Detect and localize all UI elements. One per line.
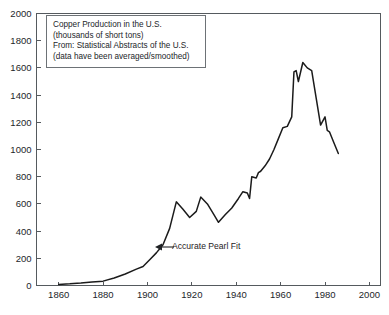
info-line-units: (thousands of short tons) <box>53 31 199 42</box>
y-tick-label: 1600 <box>10 62 31 73</box>
y-tick-label: 0 <box>26 280 31 291</box>
data-series-group <box>59 62 339 284</box>
x-tick-label: 1920 <box>181 289 202 300</box>
x-tick-label: 2000 <box>359 289 380 300</box>
y-tick-label: 1800 <box>10 35 31 46</box>
annotation-label: Accurate Pearl Fit <box>172 241 240 251</box>
y-tick-label: 1400 <box>10 90 31 101</box>
x-tick-label: 1980 <box>314 289 335 300</box>
x-tick-label: 1880 <box>93 289 114 300</box>
y-tick-label: 1000 <box>10 144 31 155</box>
data-series-line <box>59 62 339 284</box>
figure-container: 0200400600800100012001400160018002000186… <box>0 0 389 315</box>
info-line-title: Copper Production in the U.S. <box>53 20 199 31</box>
x-tick-label: 1900 <box>137 289 158 300</box>
y-tick-label: 2000 <box>10 8 31 19</box>
x-tick-label: 1860 <box>48 289 69 300</box>
x-tick-label: 1960 <box>270 289 291 300</box>
chart-info-box: Copper Production in the U.S. (thousands… <box>46 15 206 68</box>
info-line-source: From: Statistical Abstracts of the U.S. <box>53 41 199 52</box>
y-tick-label: 800 <box>16 171 32 182</box>
y-tick-label: 200 <box>16 253 32 264</box>
info-line-note: (data have been averaged/smoothed) <box>53 52 199 63</box>
y-tick-label: 400 <box>16 226 32 237</box>
y-tick-label: 1200 <box>10 117 31 128</box>
y-tick-label: 600 <box>16 198 32 209</box>
x-tick-label: 1940 <box>226 289 247 300</box>
